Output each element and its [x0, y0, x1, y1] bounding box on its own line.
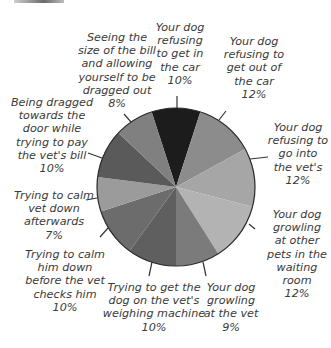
label-seeing-bill: Seeing the size of the bill and allowing…	[74, 31, 160, 110]
label-calm-after: Trying to calm vet down afterwards 7%	[6, 189, 102, 242]
leader-line	[219, 111, 226, 120]
leader-line	[124, 114, 131, 122]
leader-line	[249, 224, 255, 229]
leader-line	[203, 262, 206, 276]
leader-line	[149, 262, 152, 276]
pie-slices	[97, 108, 255, 266]
label-growl-pets: Your dog growling at other pets in the w…	[257, 208, 331, 300]
label-calm-before: Trying to calm him down before the vet c…	[14, 248, 116, 314]
label-get-out-car: Your dog refusing to get out of the car …	[214, 35, 294, 101]
label-into-vets: Your dog refusing to go into the vet's 1…	[259, 121, 331, 187]
